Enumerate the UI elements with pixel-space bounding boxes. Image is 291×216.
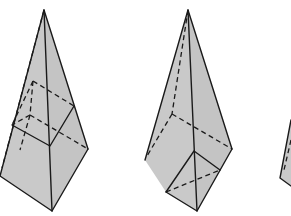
pyramids-diagram bbox=[0, 0, 291, 216]
pyramid-1 bbox=[0, 10, 88, 211]
pyramid-2 bbox=[145, 10, 232, 211]
pyramid-3 bbox=[280, 120, 291, 186]
